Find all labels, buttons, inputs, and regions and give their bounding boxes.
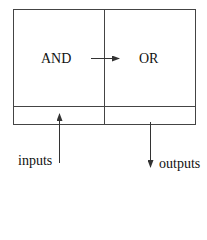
outputs-label: outputs [159, 157, 200, 171]
and-block-label: AND [41, 52, 71, 66]
or-block-label: OR [139, 52, 158, 66]
inputs-label: inputs [18, 154, 52, 168]
